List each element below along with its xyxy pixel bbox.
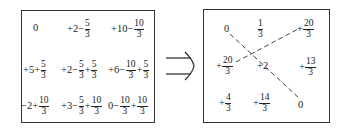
fraction: 53 xyxy=(85,19,91,40)
denominator: 3 xyxy=(140,107,145,117)
left-grid-cell-r3-c1: −2+103 xyxy=(21,96,50,117)
term-text: 0 xyxy=(224,24,229,35)
term-text: −2+ xyxy=(21,101,38,112)
term-text: + xyxy=(216,61,222,72)
term-text: + xyxy=(297,24,303,35)
denominator: 3 xyxy=(92,71,97,81)
denominator: 3 xyxy=(94,107,99,117)
fraction: 53 xyxy=(79,60,85,81)
denominator: 3 xyxy=(85,30,90,40)
right-grid-cell-r2-c1: +203 xyxy=(216,56,233,77)
denominator: 3 xyxy=(226,104,231,114)
term-text: + xyxy=(85,101,91,112)
fraction: 203 xyxy=(303,19,314,40)
term-text: +6− xyxy=(108,65,125,76)
fraction: 53 xyxy=(41,60,47,81)
fraction: 203 xyxy=(222,56,233,77)
denominator: 3 xyxy=(123,107,128,117)
left-grid-cell-r3-c2: +3−53+103 xyxy=(61,96,102,117)
denominator: 3 xyxy=(137,30,142,40)
term-text: +2 xyxy=(257,61,268,72)
term-text: + xyxy=(85,65,91,76)
denominator: 3 xyxy=(79,71,84,81)
term-text: + xyxy=(299,62,305,73)
fraction: 53 xyxy=(79,96,85,117)
term-text: + xyxy=(137,65,143,76)
term-text: +5+ xyxy=(23,65,40,76)
dashed-line-cross-diagonal xyxy=(236,28,300,62)
term-text: 0 xyxy=(33,23,38,34)
term-text: 0− xyxy=(108,101,119,112)
denominator: 3 xyxy=(308,68,313,78)
fraction: 133 xyxy=(305,57,316,78)
right-grid-cell-r3-c3: 0 xyxy=(298,100,303,111)
left-grid-cell-r2-c1: +5+53 xyxy=(23,60,47,81)
denominator: 3 xyxy=(258,30,263,40)
fraction: 103 xyxy=(126,60,137,81)
denominator: 3 xyxy=(306,30,311,40)
term-text: +10− xyxy=(111,24,133,35)
fraction: 13 xyxy=(258,19,264,40)
term-text: + xyxy=(219,98,225,109)
denominator: 3 xyxy=(262,104,267,114)
fraction: 143 xyxy=(259,93,270,114)
right-grid-cell-r2-c3: +133 xyxy=(299,57,316,78)
arrow-and-lines-overlay xyxy=(0,0,337,134)
fraction: 103 xyxy=(91,96,102,117)
denominator: 3 xyxy=(144,71,149,81)
fraction: 103 xyxy=(120,96,131,117)
denominator: 3 xyxy=(41,71,46,81)
fraction: 53 xyxy=(91,60,97,81)
denominator: 3 xyxy=(79,107,84,117)
right-grid-cell-r3-c1: +43 xyxy=(219,93,232,114)
implies-arrow-icon xyxy=(166,52,194,80)
fraction: 103 xyxy=(134,19,145,40)
left-grid-cell-r1-c3: +10−103 xyxy=(111,19,145,40)
left-grid-cell-r1-c2: +2−53 xyxy=(67,19,91,40)
denominator: 3 xyxy=(128,71,133,81)
term-text: +3− xyxy=(61,101,78,112)
right-grid-cell-r1-c1: 0 xyxy=(224,24,229,35)
left-grid-cell-r2-c2: +2−53+53 xyxy=(61,60,98,81)
fraction: 103 xyxy=(39,96,50,117)
fraction: 43 xyxy=(225,93,231,114)
fraction: 53 xyxy=(143,60,149,81)
right-grid-cell-r2-c2: +2 xyxy=(257,61,268,72)
left-grid-cell-r1-c1: 0 xyxy=(33,23,38,34)
term-text: +2− xyxy=(61,65,78,76)
denominator: 3 xyxy=(225,67,230,77)
left-grid-cell-r3-c3: 0−103+103 xyxy=(108,96,148,117)
term-text: + xyxy=(253,98,259,109)
right-grid-cell-r3-c2: +143 xyxy=(253,93,270,114)
term-text: +2− xyxy=(67,24,84,35)
term-text: 0 xyxy=(298,100,303,111)
right-grid-cell-r1-c3: +203 xyxy=(297,19,314,40)
left-grid-cell-r2-c3: +6−103+53 xyxy=(108,60,149,81)
term-text: + xyxy=(131,101,137,112)
right-grid-cell-r1-c2: 13 xyxy=(257,19,264,40)
denominator: 3 xyxy=(41,107,46,117)
fraction: 103 xyxy=(137,96,148,117)
